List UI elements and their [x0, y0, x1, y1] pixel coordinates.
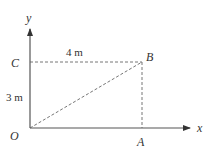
origin-label: O — [10, 129, 19, 143]
dimension-horizontal-label: 4 m — [66, 46, 83, 58]
y-axis-label: y — [25, 11, 32, 25]
dimension-vertical-label: 3 m — [6, 91, 23, 103]
x-axis-label: x — [196, 121, 203, 135]
point-a-label: A — [136, 135, 145, 149]
coordinate-diagram: y x O C B A 4 m 3 m — [0, 0, 210, 149]
point-b-label: B — [146, 50, 154, 64]
point-c-label: C — [11, 56, 20, 70]
dashed-line-ob — [30, 62, 142, 128]
